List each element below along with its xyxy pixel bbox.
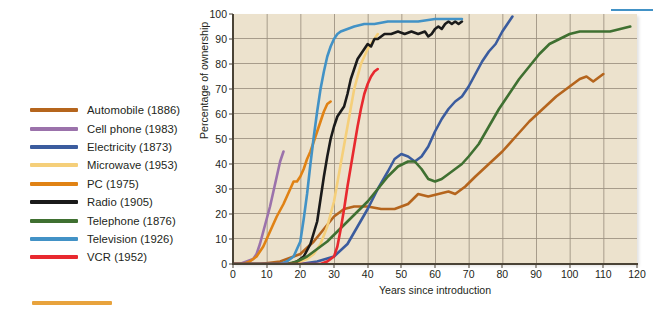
legend-color-swatch bbox=[30, 219, 78, 223]
chart-plot: 0102030405060708090100010203040506070809… bbox=[233, 14, 637, 264]
legend-item-label: VCR (1952) bbox=[87, 251, 147, 263]
legend-item[interactable]: VCR (1952) bbox=[30, 248, 210, 266]
x-axis-tick-label: 100 bbox=[561, 268, 579, 280]
legend-item-label: Automobile (1886) bbox=[87, 104, 180, 116]
y-axis-tick-mark bbox=[229, 189, 233, 190]
y-axis-tick-label: 0 bbox=[203, 258, 227, 270]
series-line bbox=[233, 27, 630, 265]
y-axis-tick-mark bbox=[229, 14, 233, 15]
x-axis-tick-mark bbox=[468, 264, 469, 268]
y-axis-label: Percentage of ownership bbox=[198, 22, 210, 139]
y-axis-tick-mark bbox=[229, 39, 233, 40]
legend-item[interactable]: Microwave (1953) bbox=[30, 156, 210, 174]
y-axis-tick-mark bbox=[229, 89, 233, 90]
legend-color-swatch bbox=[30, 182, 78, 186]
legend-item-label: PC (1975) bbox=[87, 178, 139, 190]
chart-legend: Automobile (1886)Cell phone (1983)Electr… bbox=[30, 101, 210, 267]
y-axis-tick-mark bbox=[229, 64, 233, 65]
x-axis-tick-mark bbox=[502, 264, 503, 268]
legend-item[interactable]: Telephone (1876) bbox=[30, 211, 210, 229]
x-axis-tick-mark bbox=[435, 264, 436, 268]
x-axis-label: Years since introduction bbox=[379, 284, 491, 296]
x-axis-tick-mark bbox=[401, 264, 402, 268]
x-axis-tick-label: 70 bbox=[463, 268, 475, 280]
legend-item-label: Telephone (1876) bbox=[87, 215, 176, 227]
x-axis-tick-mark bbox=[569, 264, 570, 268]
y-axis-tick-label: 40 bbox=[203, 158, 227, 170]
series-lines bbox=[233, 14, 637, 264]
legend-item[interactable]: Radio (1905) bbox=[30, 193, 210, 211]
y-axis-tick-label: 10 bbox=[203, 233, 227, 245]
y-axis-tick-mark bbox=[229, 114, 233, 115]
legend-item[interactable]: Television (1926) bbox=[30, 230, 210, 248]
y-axis-tick-label: 100 bbox=[203, 8, 227, 20]
x-axis-tick-label: 110 bbox=[595, 268, 612, 280]
legend-item[interactable]: Automobile (1886) bbox=[30, 101, 210, 119]
series-line bbox=[233, 152, 284, 265]
x-axis-tick-label: 0 bbox=[230, 268, 236, 280]
y-axis-tick-mark bbox=[229, 164, 233, 165]
legend-item-label: Radio (1905) bbox=[87, 196, 153, 208]
x-axis-tick-mark bbox=[266, 264, 267, 268]
x-axis-tick-label: 120 bbox=[628, 268, 646, 280]
y-axis-tick-label: 30 bbox=[203, 183, 227, 195]
x-axis-tick-mark bbox=[536, 264, 537, 268]
legend-item-label: Microwave (1953) bbox=[87, 159, 178, 171]
x-axis-tick-label: 90 bbox=[530, 268, 542, 280]
cropped-top-element-fragment bbox=[611, 0, 653, 11]
x-axis-tick-label: 60 bbox=[429, 268, 441, 280]
x-axis-tick-mark bbox=[603, 264, 604, 268]
legend-item-label: Cell phone (1983) bbox=[87, 123, 178, 135]
x-axis-tick-label: 20 bbox=[294, 268, 306, 280]
x-axis-tick-mark bbox=[367, 264, 368, 268]
y-axis-tick-mark bbox=[229, 139, 233, 140]
legend-color-swatch bbox=[30, 163, 78, 167]
x-axis-tick-label: 30 bbox=[328, 268, 340, 280]
x-axis-tick-mark bbox=[300, 264, 301, 268]
legend-color-swatch bbox=[30, 200, 78, 204]
y-axis-tick-label: 20 bbox=[203, 208, 227, 220]
series-line bbox=[233, 74, 603, 264]
legend-item[interactable]: PC (1975) bbox=[30, 175, 210, 193]
series-line bbox=[233, 22, 462, 265]
legend-item[interactable]: Electricity (1873) bbox=[30, 138, 210, 156]
y-axis-tick-mark bbox=[229, 214, 233, 215]
x-axis-tick-mark bbox=[334, 264, 335, 268]
cropped-legend-swatch-fragment bbox=[32, 301, 112, 305]
x-axis-tick-label: 80 bbox=[496, 268, 508, 280]
series-line bbox=[233, 17, 512, 265]
legend-color-swatch bbox=[30, 145, 78, 149]
series-line bbox=[233, 19, 462, 264]
x-axis-tick-mark bbox=[233, 264, 234, 268]
legend-color-swatch bbox=[30, 237, 78, 241]
legend-item-label: Television (1926) bbox=[87, 233, 173, 245]
legend-item[interactable]: Cell phone (1983) bbox=[30, 119, 210, 137]
legend-color-swatch bbox=[30, 127, 78, 131]
x-axis-tick-label: 50 bbox=[395, 268, 407, 280]
x-axis-tick-mark bbox=[637, 264, 638, 268]
legend-item-label: Electricity (1873) bbox=[87, 141, 172, 153]
legend-color-swatch bbox=[30, 255, 78, 259]
x-axis-tick-label: 10 bbox=[261, 268, 273, 280]
y-axis-tick-mark bbox=[229, 239, 233, 240]
x-axis-tick-label: 40 bbox=[362, 268, 374, 280]
legend-color-swatch bbox=[30, 108, 78, 112]
